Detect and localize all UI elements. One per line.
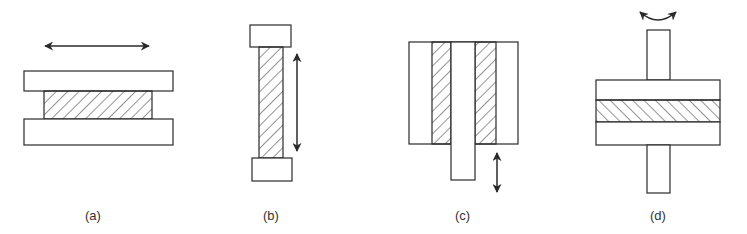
panel-label-b: (b): [263, 208, 279, 223]
specimen-hatched-left: [432, 42, 451, 144]
specimen-hatched: [44, 91, 152, 119]
top-shaft: [647, 30, 670, 80]
figure-canvas: (a) (b) (c) (d): [0, 0, 747, 234]
rotation-arrow-icon: [640, 12, 676, 20]
lower-plate: [596, 122, 720, 145]
top-plate: [24, 71, 173, 91]
panel-d: (d): [596, 12, 720, 223]
bottom-shaft: [647, 145, 670, 193]
specimen-hatched: [259, 47, 283, 158]
panel-a: (a): [24, 46, 173, 223]
bottom-cap: [252, 158, 292, 181]
top-cap: [250, 25, 291, 47]
panel-b: (b): [250, 25, 297, 223]
bottom-plate: [24, 119, 173, 145]
panel-label-d: (d): [650, 208, 666, 223]
upper-plate: [596, 80, 720, 100]
specimen-hatched: [596, 100, 720, 122]
panel-label-a: (a): [85, 208, 101, 223]
panel-label-c: (c): [455, 208, 470, 223]
panel-c: (c): [409, 42, 518, 223]
specimen-hatched-right: [475, 42, 496, 144]
center-shaft: [451, 42, 475, 180]
